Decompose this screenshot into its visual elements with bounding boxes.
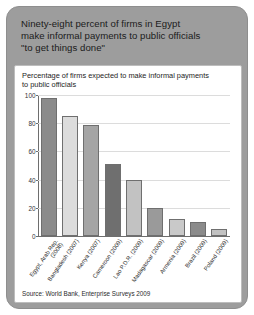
y-tick-label: 40 <box>28 176 35 183</box>
bar <box>41 98 57 236</box>
y-tick-mark <box>36 180 38 181</box>
bar <box>105 164 121 236</box>
chart-subtitle-line-1: Percentage of firms expected to make inf… <box>22 71 236 80</box>
headline-line-1: Ninety-eight percent of firms in Egypt <box>21 18 235 30</box>
y-tick-label: 0 <box>32 233 36 240</box>
chart-subtitle: Percentage of firms expected to make inf… <box>22 71 236 89</box>
headline: Ninety-eight percent of firms in Egypt m… <box>21 18 235 54</box>
chart-card: Percentage of firms expected to make inf… <box>14 65 242 303</box>
headline-line-3: "to get things done" <box>21 42 235 54</box>
y-tick-label: 100 <box>25 92 36 99</box>
chart-subtitle-line-2: to public officials <box>22 80 236 89</box>
bar <box>147 208 163 236</box>
x-axis-line <box>38 236 230 237</box>
bar <box>190 222 206 236</box>
bar <box>126 180 142 236</box>
y-tick-mark <box>36 95 38 96</box>
x-axis-labels: Egypt, Arab Rep.(2008)Bangladesh (2007)K… <box>38 238 234 294</box>
bar <box>83 125 99 236</box>
y-tick-label: 60 <box>28 148 35 155</box>
y-axis-line <box>38 95 39 237</box>
bar <box>62 116 78 236</box>
plot-area: 020406080100 <box>38 95 230 237</box>
gridline <box>38 95 230 96</box>
bar <box>169 219 185 236</box>
y-tick-label: 20 <box>28 204 35 211</box>
y-tick-mark <box>36 123 38 124</box>
headline-line-2: make informal payments to public officia… <box>21 30 235 42</box>
y-tick-mark <box>36 151 38 152</box>
y-tick-mark <box>36 236 38 237</box>
y-tick-mark <box>36 208 38 209</box>
figure-panel: Ninety-eight percent of firms in Egypt m… <box>6 6 248 309</box>
bar <box>211 229 227 236</box>
y-tick-label: 80 <box>28 120 35 127</box>
source-note: Source: World Bank, Enterprise Surveys 2… <box>22 290 150 297</box>
